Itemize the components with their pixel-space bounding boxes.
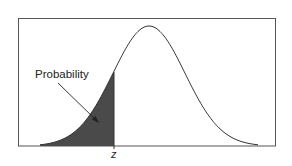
plot-frame — [19, 19, 276, 147]
probability-label: Probability — [35, 68, 89, 80]
z-label: z — [111, 148, 117, 160]
normal-distribution-figure — [0, 0, 292, 166]
